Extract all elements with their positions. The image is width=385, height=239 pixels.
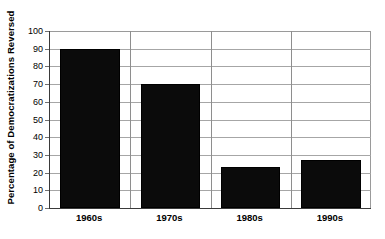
- bar: [301, 160, 360, 208]
- y-axis-tick-label: 60: [33, 97, 43, 107]
- x-axis-tick-label: 1960s: [49, 212, 129, 223]
- category-separator-line: [130, 31, 131, 208]
- y-axis-tick-label: 100: [28, 26, 43, 36]
- category-separator-line: [291, 31, 292, 208]
- x-axis-tick-label: 1990s: [290, 212, 370, 223]
- x-axis-tick-labels: 1960s1970s1980s1990s: [49, 212, 370, 230]
- bar: [221, 167, 280, 208]
- y-axis-tick-label: 30: [33, 150, 43, 160]
- y-axis-tick-label: 20: [33, 168, 43, 178]
- y-axis-tick-label: 80: [33, 61, 43, 71]
- y-axis-tick-label: 10: [33, 185, 43, 195]
- y-axis-title: Percentage of Democratizations Reversed: [0, 0, 22, 215]
- y-axis-title-label: Percentage of Democratizations Reversed: [6, 11, 17, 205]
- x-axis-tick-label: 1970s: [129, 212, 209, 223]
- bar: [141, 84, 200, 208]
- x-axis-tick-label: 1980s: [210, 212, 290, 223]
- y-axis-tick-label: 0: [38, 203, 43, 213]
- plot-area: [49, 31, 371, 209]
- y-axis-tick-label: 50: [33, 115, 43, 125]
- bar: [60, 49, 119, 208]
- y-axis-tick-label: 70: [33, 79, 43, 89]
- bar-chart-figure: Percentage of Democratizations Reversed …: [0, 0, 385, 239]
- category-separator-line: [211, 31, 212, 208]
- y-axis-tick-label: 40: [33, 132, 43, 142]
- y-axis-tick-label: 90: [33, 44, 43, 54]
- y-axis-tick-labels: 0102030405060708090100: [22, 31, 46, 208]
